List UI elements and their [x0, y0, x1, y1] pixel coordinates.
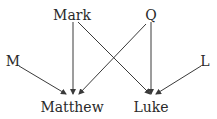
- node-m: M: [6, 54, 20, 68]
- edge-m-to-matthew: [19, 66, 66, 94]
- node-q: Q: [145, 8, 156, 22]
- edges-layer: [0, 0, 217, 119]
- node-matthew: Matthew: [40, 100, 103, 114]
- source-dependency-diagram: Mark Q M L Matthew Luke: [0, 0, 217, 119]
- edge-q-to-matthew: [79, 24, 146, 94]
- node-mark: Mark: [53, 8, 91, 22]
- node-l: L: [200, 54, 209, 68]
- node-luke: Luke: [133, 100, 168, 114]
- edge-l-to-luke: [156, 66, 201, 94]
